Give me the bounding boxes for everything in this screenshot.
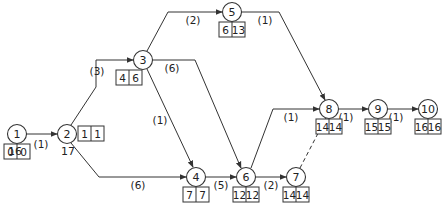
- activity-edge: (2): [256, 177, 286, 191]
- node-number: 8: [326, 103, 333, 116]
- earliest-time: 14: [283, 189, 297, 201]
- node-number: 4: [193, 171, 200, 184]
- node-number: 10: [421, 103, 435, 116]
- node-number: 5: [229, 6, 236, 19]
- time-box: 77: [183, 187, 209, 202]
- activity-edge: (5): [206, 177, 236, 191]
- edge-3-5-arrow: [147, 12, 222, 51]
- event-node-1: 1: [8, 125, 27, 144]
- latest-time: 13: [232, 24, 245, 36]
- event-node-8: 8: [320, 100, 339, 119]
- node-number: 6: [243, 171, 250, 184]
- activity-edge: (1): [251, 109, 319, 168]
- node-number: 1: [14, 128, 21, 141]
- activity-edge: (2): [147, 12, 222, 51]
- latest-time: 1: [94, 128, 101, 140]
- event-node-6: 6: [237, 168, 256, 187]
- activity-edge: (1): [242, 12, 325, 100]
- event-node-2: 2: [58, 125, 77, 144]
- event-node-4: 4: [187, 168, 206, 187]
- time-box: 1616: [415, 119, 442, 134]
- activity-edge: (1): [339, 109, 368, 123]
- node-number: 9: [375, 103, 382, 116]
- edge-duration-label: (1): [34, 138, 49, 150]
- time-box: 613: [219, 22, 245, 37]
- event-node-7: 7: [287, 168, 306, 187]
- earliest-time: 14: [316, 121, 330, 133]
- earliest-time: 4: [119, 72, 126, 84]
- edge-5-8-arrow: [242, 12, 325, 100]
- latest-time: 14: [296, 189, 310, 201]
- edge-duration-label: (6): [131, 179, 146, 191]
- latest-time: 6: [132, 72, 139, 84]
- latest-time: 16: [428, 121, 442, 133]
- edge-duration-label: (2): [264, 179, 279, 191]
- activity-edge: (1): [147, 69, 193, 167]
- time-box: 1414: [316, 119, 343, 134]
- edge-duration-label: (1): [284, 111, 299, 123]
- node-number: 7: [293, 171, 300, 184]
- nodes-layer: 1002113464775613612127141481414915151016…: [4, 3, 441, 203]
- edge-2-4-arrow: [71, 143, 186, 177]
- event-node-3: 3: [134, 51, 153, 70]
- latest-time: 14: [329, 121, 343, 133]
- earliest-time: 6: [222, 24, 229, 36]
- edge-duration-label: (3): [90, 65, 105, 77]
- earliest-time: 15: [365, 121, 378, 133]
- latest-time: 12: [246, 189, 259, 201]
- earliest-time: 7: [186, 189, 193, 201]
- annotation-number: 16: [8, 145, 22, 158]
- earliest-time: 1: [81, 128, 88, 140]
- activity-edge: (1): [26, 134, 57, 150]
- edges-layer: (1)(3)(6)(2)(6)(1)(1)(5)(1)(2)(1)(1): [26, 12, 418, 191]
- activity-edge: (1): [388, 109, 418, 123]
- time-box: 11: [78, 126, 104, 141]
- time-box: 1414: [283, 187, 310, 202]
- diagram-svg: (1)(3)(6)(2)(6)(1)(1)(5)(1)(2)(1)(1) 100…: [0, 0, 443, 204]
- node-number: 3: [140, 54, 147, 67]
- annotation-number: 17: [61, 145, 75, 158]
- event-node-10: 10: [419, 100, 438, 119]
- edge-duration-label: (1): [153, 114, 168, 126]
- network-diagram: (1)(3)(6)(2)(6)(1)(1)(5)(1)(2)(1)(1) 100…: [0, 0, 443, 204]
- node-number: 2: [64, 128, 71, 141]
- earliest-time: 16: [415, 121, 429, 133]
- earliest-time: 12: [233, 189, 246, 201]
- edge-duration-label: (6): [165, 62, 180, 74]
- latest-time: 7: [199, 189, 206, 201]
- time-box: 1515: [365, 119, 391, 134]
- time-box: 46: [116, 70, 142, 85]
- edge-duration-label: (1): [258, 14, 273, 26]
- edge-duration-label: (2): [186, 14, 201, 26]
- event-node-9: 9: [369, 100, 388, 119]
- time-box: 1212: [233, 187, 259, 202]
- activity-edge: (6): [71, 143, 186, 191]
- event-node-5: 5: [223, 3, 242, 22]
- latest-time: 15: [378, 121, 391, 133]
- edge-duration-label: (5): [214, 179, 229, 191]
